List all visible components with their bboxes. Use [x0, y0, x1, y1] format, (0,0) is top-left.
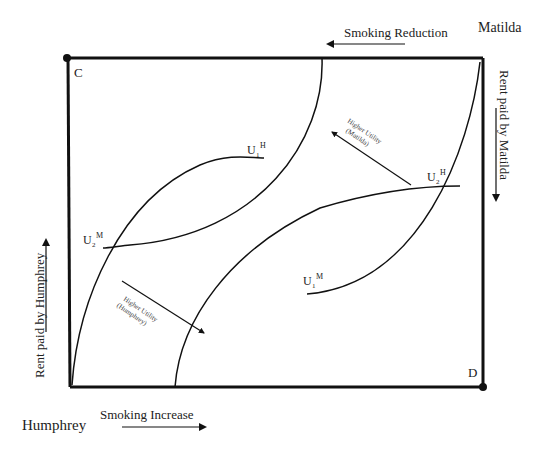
label-u2h: U 2 H	[427, 168, 446, 186]
agent-matilda: Matilda	[478, 20, 522, 35]
svg-text:U: U	[247, 143, 256, 157]
svg-text:1: 1	[256, 151, 260, 159]
svg-text:U: U	[303, 274, 312, 288]
curve-u2m	[103, 58, 322, 248]
svg-text:1: 1	[312, 282, 316, 290]
label-u2m: U 2 M	[83, 231, 103, 249]
svg-text:U: U	[83, 233, 92, 247]
curve-u1m	[307, 62, 480, 294]
axis-bottom-label: Smoking Increase	[100, 407, 194, 422]
svg-text:U: U	[427, 170, 436, 184]
corner-d-label: D	[468, 365, 477, 380]
svg-text:2: 2	[92, 241, 96, 249]
curve-u2h	[175, 186, 460, 387]
edgeworth-box-diagram: C D Matilda Humphrey Smoking Reduction S…	[0, 0, 549, 459]
axis-left-label: Rent paid by Humphrey	[32, 252, 47, 378]
svg-text:M: M	[316, 272, 323, 281]
svg-text:M: M	[96, 231, 103, 240]
corner-d-dot	[479, 383, 487, 391]
label-u1m: U 1 M	[303, 272, 323, 290]
corner-c-dot	[63, 54, 71, 62]
svg-text:2: 2	[436, 178, 440, 186]
label-u1h: U 1 H	[247, 141, 266, 159]
axis-right-label: Rent paid by Matilda	[497, 70, 512, 180]
axis-top-label: Smoking Reduction	[344, 25, 448, 40]
svg-text:H: H	[260, 141, 266, 150]
higher-utility-matilda-label: Higher Utility (Matilda)	[341, 117, 384, 153]
curve-u1h	[72, 157, 264, 385]
agent-humphrey: Humphrey	[22, 417, 87, 433]
corner-c-label: C	[74, 65, 83, 80]
svg-text:H: H	[440, 168, 446, 177]
higher-utility-humphrey-label: Higher Utility (Humphrey)	[115, 294, 159, 332]
